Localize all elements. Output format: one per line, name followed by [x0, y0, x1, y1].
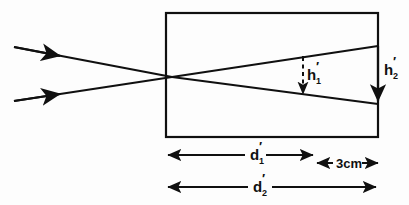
optics-ray-diagram: h 1 ′ h 2 ′ d 1 ′ d 2 ′ 3cm — [0, 0, 409, 205]
ray-lower-arrowhead-segment — [14, 94, 60, 101]
diagram-canvas: h 1 ′ h 2 ′ d 1 ′ d 2 ′ 3cm — [0, 0, 409, 205]
ray-lower-refracted — [172, 46, 378, 77]
ray-upper-arrowhead-segment — [14, 47, 60, 56]
d1-label-prime: ′ — [259, 139, 262, 154]
gap-label: 3cm — [336, 156, 362, 171]
d2-label-base: d — [253, 178, 262, 195]
h1-label-base: h — [307, 66, 316, 83]
d1-label-subscript: 1 — [259, 156, 264, 166]
ray-upper-refracted — [172, 77, 378, 104]
d2-label-subscript: 2 — [262, 188, 267, 198]
h2-label-base: h — [384, 61, 393, 78]
h1-label-subscript: 1 — [316, 76, 321, 86]
h2-label-subscript: 2 — [393, 71, 398, 81]
lens-box — [166, 13, 378, 137]
h2-label-prime: ′ — [393, 54, 396, 69]
h1-label-prime: ′ — [316, 59, 319, 74]
d2-label-prime: ′ — [262, 171, 265, 186]
d1-label-base: d — [250, 146, 259, 163]
